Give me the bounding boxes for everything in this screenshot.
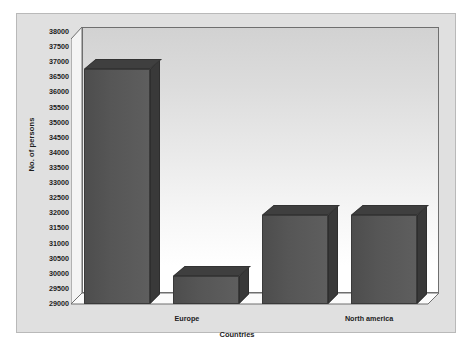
bar <box>351 215 417 304</box>
y-axis-tick-label: 32500 <box>29 193 69 202</box>
y-axis-tick-label: 37500 <box>29 42 69 51</box>
chart-frame: No. of persons 3800037500370003650036000… <box>16 13 456 333</box>
y-axis-tick-label: 33500 <box>29 163 69 172</box>
bar <box>84 69 150 304</box>
bar <box>262 215 328 304</box>
bar <box>173 276 239 304</box>
bar-front-face <box>84 69 150 304</box>
x-axis-tick-labels: EuropeNorth america <box>71 314 439 328</box>
x-axis-title: Countries <box>17 330 457 339</box>
x-axis-tick-label: North america <box>345 314 393 323</box>
bar-top-face <box>173 266 251 276</box>
bar-front-face <box>351 215 417 304</box>
y-axis-tick-label: 38000 <box>29 27 69 36</box>
bar-side-face <box>417 205 427 304</box>
bar-front-face <box>173 276 239 304</box>
y-axis-tick-label: 29000 <box>29 299 69 308</box>
bars-layer <box>71 27 439 312</box>
y-axis-tick-label: 35500 <box>29 102 69 111</box>
bar-front-face <box>262 215 328 304</box>
y-axis-tick-labels: 3800037500370003650036000355003500034500… <box>29 31 69 303</box>
y-axis-tick-label: 31500 <box>29 223 69 232</box>
y-axis-tick-label: 35000 <box>29 117 69 126</box>
y-axis-tick-label: 36500 <box>29 72 69 81</box>
bar-side-face <box>328 205 338 304</box>
y-axis-tick-label: 36000 <box>29 87 69 96</box>
y-axis-tick-label: 33000 <box>29 178 69 187</box>
bar-top-face <box>351 205 429 215</box>
bar-top-face <box>262 205 340 215</box>
x-axis-tick-label: Europe <box>175 314 200 323</box>
y-axis-tick-label: 30500 <box>29 253 69 262</box>
y-axis-tick-label: 34500 <box>29 132 69 141</box>
y-axis-tick-label: 34000 <box>29 147 69 156</box>
y-axis-tick-label: 32000 <box>29 208 69 217</box>
y-axis-tick-label: 29500 <box>29 283 69 292</box>
bar-side-face <box>150 59 160 304</box>
y-axis-tick-label: 31000 <box>29 238 69 247</box>
y-axis-tick-label: 30000 <box>29 268 69 277</box>
y-axis-tick-label: 37000 <box>29 57 69 66</box>
bar-top-face <box>84 59 162 69</box>
